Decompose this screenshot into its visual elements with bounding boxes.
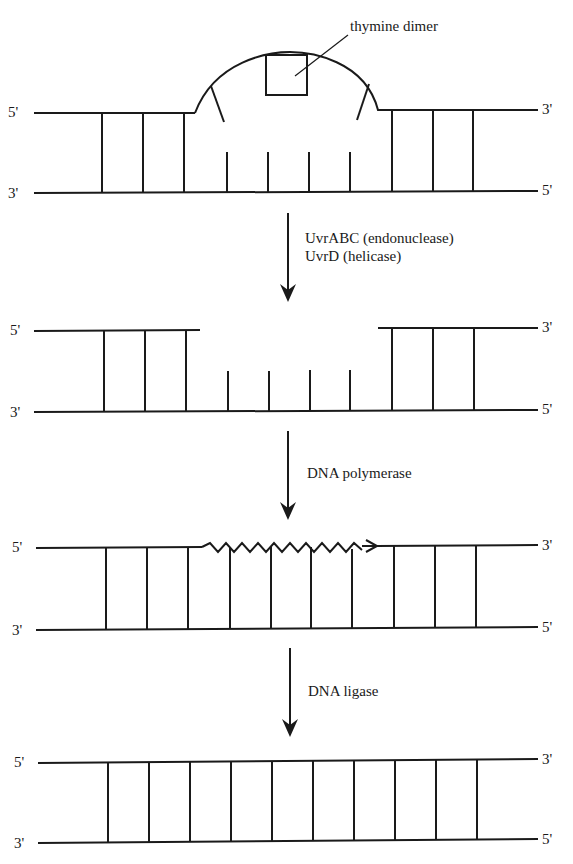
thymine-dimer-box: [266, 55, 307, 95]
stage3-top-right-label: 3': [542, 537, 552, 554]
stage1-bottom-right-label: 5': [542, 182, 552, 199]
stage2-top-right-label: 3': [542, 319, 552, 336]
stage2-top-left-label: 5': [10, 322, 20, 339]
stage4-top-left-label: 5': [14, 754, 24, 771]
stage-ligated: [38, 759, 538, 843]
stage3-bottom-right-label: 5': [542, 619, 552, 636]
repair-diagram: [0, 0, 573, 864]
stage1-top-right-label: 3': [542, 101, 552, 118]
stage2-bottom-right-label: 5': [542, 401, 552, 418]
stage1-bottom-left-label: 3': [8, 185, 18, 202]
step1-enzyme-line2: UvrD (helicase): [305, 248, 401, 265]
new-dna-zigzag: [202, 543, 362, 552]
stage1-top-left-label: 5': [8, 104, 18, 121]
stage-excised: [34, 328, 538, 412]
stage3-bottom-left-label: 3': [12, 622, 22, 639]
stage-resynthesized: [36, 540, 538, 630]
stage3-top-left-label: 5': [12, 539, 22, 556]
step1-enzyme-line1: UvrABC (endonuclease): [305, 230, 454, 247]
stage4-top-right-label: 3': [542, 751, 552, 768]
stage4-bottom-right-label: 5': [542, 831, 552, 848]
step2-enzyme-label: DNA polymerase: [307, 465, 412, 482]
stage-damaged: [34, 35, 538, 193]
stage2-bottom-left-label: 3': [10, 404, 20, 421]
stage4-bottom-left-label: 3': [14, 835, 24, 852]
step3-enzyme-label: DNA ligase: [308, 683, 378, 700]
thymine-dimer-label: thymine dimer: [350, 18, 438, 35]
